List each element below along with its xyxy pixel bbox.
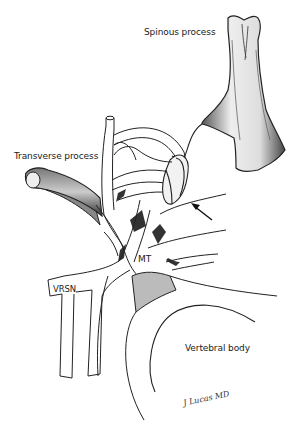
label-mt: MT bbox=[138, 254, 151, 264]
label-vrsn: VRSN bbox=[53, 284, 76, 294]
spinous-process-shape bbox=[202, 16, 285, 171]
transverse-process-shape bbox=[25, 168, 102, 225]
vrsn-branches bbox=[48, 260, 130, 378]
arrow-icon bbox=[191, 203, 212, 220]
label-transverse-process: Transverse process bbox=[14, 151, 98, 161]
label-vertebral-body: Vertebral body bbox=[185, 343, 250, 353]
ligament-ring bbox=[163, 155, 189, 204]
facet-joint-outline bbox=[114, 147, 172, 162]
label-spinous-process: Spinous process bbox=[144, 27, 215, 37]
anatomical-illustration bbox=[0, 0, 300, 431]
